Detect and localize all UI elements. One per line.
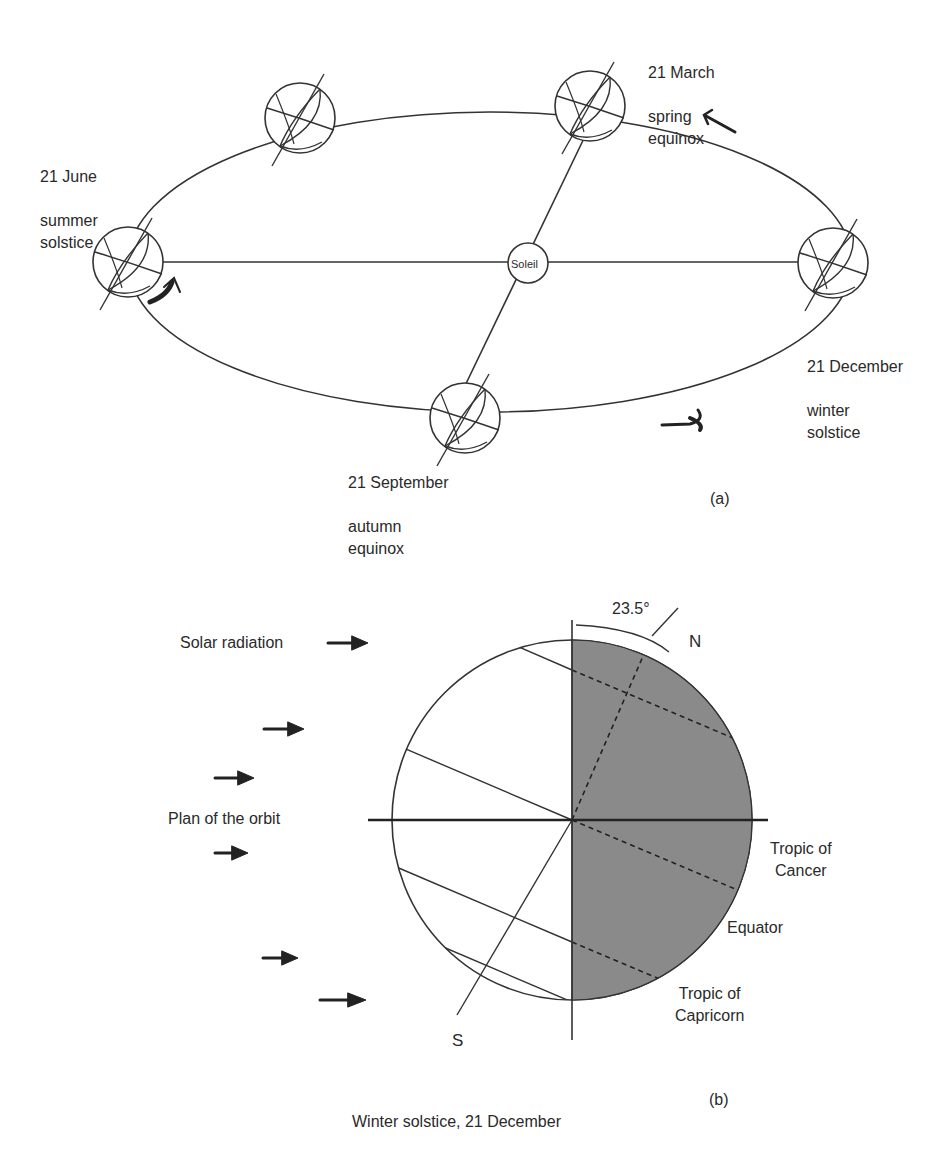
orbit-plane-label: Plan of the orbit xyxy=(168,808,280,830)
arrow-right-icon xyxy=(215,771,254,785)
figure-b-caption: Winter solstice, 21 December xyxy=(352,1111,561,1133)
earth-axis-north xyxy=(652,608,678,636)
south-pole-label: S xyxy=(452,1030,463,1052)
arrow-right-icon xyxy=(215,846,248,860)
north-pole-label: N xyxy=(689,631,701,653)
figure-b-winter-solstice-diagram xyxy=(0,0,946,1167)
tropic-of-cancer-label: Tropic of Cancer xyxy=(770,838,832,882)
arrow-right-icon xyxy=(328,636,368,650)
equator-label: Equator xyxy=(727,917,783,939)
tilt-angle-label: 23.5° xyxy=(612,598,650,620)
arrow-right-icon xyxy=(264,722,304,736)
tropic-of-capricorn-label: Tropic of Capricorn xyxy=(675,983,744,1027)
solar-radiation-label: Solar radiation xyxy=(180,632,283,654)
arrow-right-icon xyxy=(320,993,366,1007)
panel-label-b: (b) xyxy=(709,1089,729,1111)
arrow-right-icon xyxy=(263,951,298,965)
